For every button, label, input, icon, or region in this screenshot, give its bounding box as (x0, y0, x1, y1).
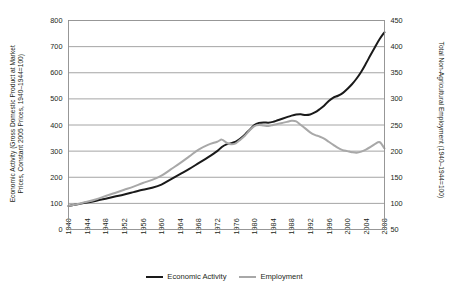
y-axis-right-ticks: 50100150200250300350400450 (391, 16, 403, 234)
x-axis-tick-label: 1948 (101, 218, 110, 234)
y-axis-right-tick-label: 350 (391, 68, 403, 77)
x-axis-tick-label: 1996 (325, 218, 334, 234)
y-axis-left-ticks: 0100200300400500600700800 (50, 16, 62, 234)
legend-label-economic-activity: Economic Activity (167, 272, 226, 281)
legend-item-employment: Employment (239, 272, 302, 281)
x-axis-tick-label: 1968 (194, 218, 203, 234)
x-axis-tick-label: 2000 (343, 218, 352, 234)
x-axis-ticks: 1940194419481952195619601964196819721976… (64, 218, 389, 234)
x-axis-tick-label: 1956 (139, 218, 148, 234)
x-axis-tick-label: 1980 (250, 218, 259, 234)
y-axis-left-tick-label: 500 (50, 94, 62, 103)
chart-plot: 0100200300400500600700800 50100150200250… (0, 0, 449, 301)
y-axis-left-tick-label: 600 (50, 68, 62, 77)
chart-figure: Economic Activity (Gross Domestic Produc… (0, 0, 449, 301)
x-axis-tick-label: 1976 (232, 218, 241, 234)
legend-label-employment: Employment (260, 272, 302, 281)
x-axis-tick-label: 1984 (269, 218, 278, 234)
y-axis-left-tick-label: 0 (58, 225, 62, 234)
y-axis-right-tick-label: 300 (391, 94, 403, 103)
series-line-employment (69, 121, 385, 206)
series-line-economic-activity (69, 32, 385, 206)
y-axis-left-tick-label: 100 (50, 199, 62, 208)
y-axis-left-tick-label: 200 (50, 173, 62, 182)
y-axis-left-tick-label: 300 (50, 147, 62, 156)
y-axis-left-tick-label: 800 (50, 16, 62, 25)
data-series-group (69, 32, 385, 206)
x-axis-tick-label: 1960 (157, 218, 166, 234)
gridlines-group (69, 47, 385, 204)
y-axis-right-tick-label: 100 (391, 199, 403, 208)
y-axis-right-tick-label: 50 (391, 225, 399, 234)
y-axis-left-tick-label: 700 (50, 42, 62, 51)
legend-swatch-economic-activity (146, 276, 163, 278)
y-axis-left-tick-label: 400 (50, 121, 62, 130)
x-axis-tick-label: 1944 (83, 218, 92, 234)
y-axis-right-tick-label: 150 (391, 173, 403, 182)
x-axis-tick-label: 1964 (176, 218, 185, 234)
chart-legend: Economic Activity Employment (0, 272, 449, 281)
legend-swatch-employment (239, 276, 256, 278)
y-axis-right-tick-label: 200 (391, 147, 403, 156)
y-axis-right-tick-label: 400 (391, 42, 403, 51)
x-axis-tick-label: 1972 (213, 218, 222, 234)
x-axis-tick-label: 1992 (306, 218, 315, 234)
x-axis-tick-label: 1988 (287, 218, 296, 234)
y-axis-right-tick-label: 450 (391, 16, 403, 25)
y-axis-right-tick-label: 250 (391, 121, 403, 130)
legend-item-economic-activity: Economic Activity (146, 272, 226, 281)
x-axis-tick-label: 1952 (120, 218, 129, 234)
x-axis-tick-label: 2004 (362, 218, 371, 234)
